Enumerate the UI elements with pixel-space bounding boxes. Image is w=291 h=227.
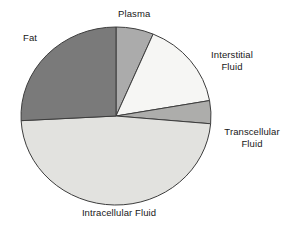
pie-label-interstitial-fluid-line1: Interstitial (199, 49, 265, 61)
pie-label-plasma: Plasma (118, 8, 150, 20)
pie-label-interstitial-fluid: Interstitial Fluid (199, 49, 265, 72)
pie-chart-canvas (0, 0, 291, 227)
pie-label-plasma-text: Plasma (118, 8, 150, 19)
pie-slice-intracellular-fluid (21, 116, 211, 205)
pie-slice-group (21, 27, 211, 205)
pie-label-intracellular-fluid: Intracellular Fluid (63, 207, 175, 219)
pie-label-transcellular-fluid-line2: Fluid (214, 138, 290, 150)
pie-label-fat: Fat (23, 32, 37, 44)
pie-label-interstitial-fluid-line2: Fluid (199, 61, 265, 73)
pie-label-intracellular-fluid-text: Intracellular Fluid (82, 207, 156, 218)
pie-label-transcellular-fluid: Transcellular Fluid (214, 126, 290, 149)
pie-label-transcellular-fluid-line1: Transcellular (214, 126, 290, 138)
pie-label-fat-text: Fat (23, 32, 37, 43)
pie-chart: Plasma Fat Interstitial Fluid Transcellu… (0, 0, 291, 227)
